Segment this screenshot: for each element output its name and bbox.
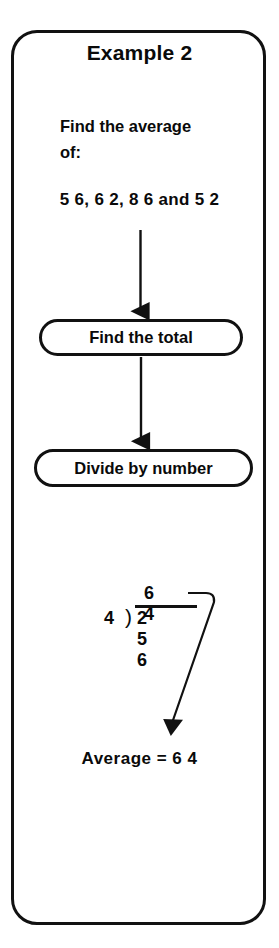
flow-step-find-the-total: Find the total	[39, 319, 243, 356]
numbers-list: 5 6, 6 2, 8 6 and 5 2	[0, 190, 279, 210]
flow-step-label: Divide by number	[74, 459, 212, 478]
answer-text: Average = 6 4	[0, 749, 279, 769]
division-divisor: 4	[104, 608, 115, 629]
prompt-line-2: of:	[60, 139, 250, 165]
prompt-text: Find the average of:	[60, 113, 250, 165]
prompt-line-1: Find the average	[60, 113, 250, 139]
example-card: Example 2 Find the average of: 5 6, 6 2,…	[0, 0, 279, 948]
flow-step-label: Find the total	[89, 328, 193, 347]
flow-step-divide-by-number: Divide by number	[34, 449, 253, 487]
division-bracket: )	[125, 605, 133, 629]
division-dividend: 2 5 6	[137, 608, 151, 671]
page-title: Example 2	[0, 41, 279, 65]
